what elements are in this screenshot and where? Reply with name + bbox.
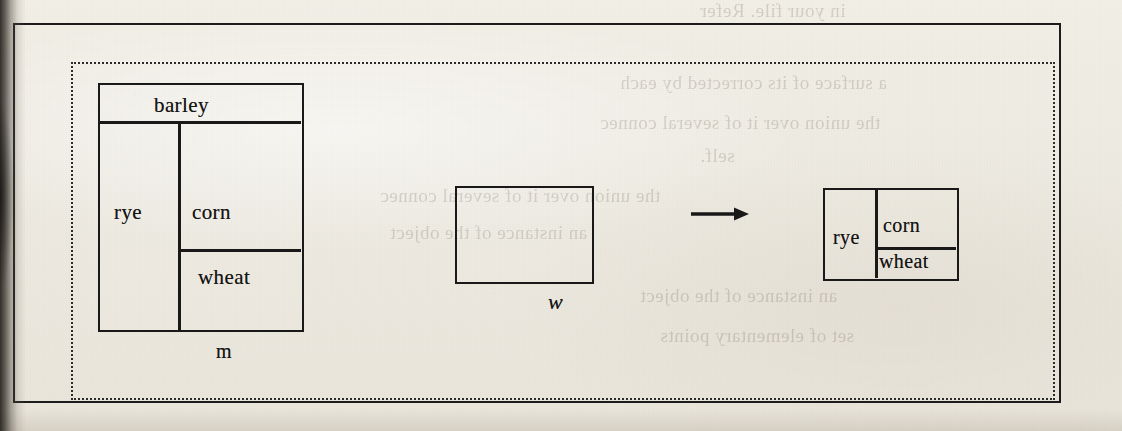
cell-label-wheat: wheat xyxy=(198,265,250,290)
cell-label-rye: rye xyxy=(114,200,142,225)
divider-corn-wheat xyxy=(178,249,301,252)
cell-label-wheat-result: wheat xyxy=(879,250,929,273)
divider-rye-corn-result xyxy=(875,190,878,278)
cell-label-barley: barley xyxy=(154,93,209,118)
right-arrow-icon xyxy=(690,206,750,222)
diagram-m: barley rye corn wheat xyxy=(98,83,304,332)
diagram-w-caption: w xyxy=(548,289,563,315)
diagram-result: rye corn wheat xyxy=(823,188,959,281)
cell-label-corn: corn xyxy=(192,200,231,225)
divider-rye-corn xyxy=(178,121,181,332)
diagram-w xyxy=(455,186,594,284)
cell-label-corn-result: corn xyxy=(883,214,920,237)
cell-label-rye-result: rye xyxy=(833,226,860,249)
divider-barley-bottom xyxy=(100,121,301,124)
diagram-m-caption: m xyxy=(216,340,232,363)
